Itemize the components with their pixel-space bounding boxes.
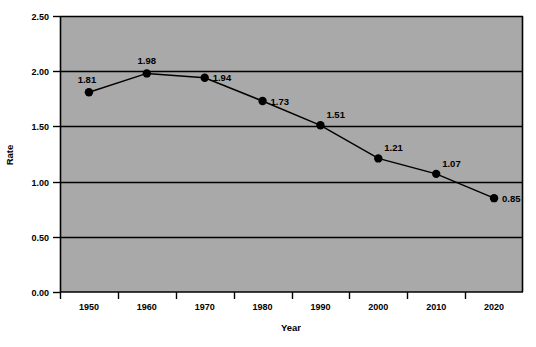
x-tick-label: 1970 (195, 302, 215, 312)
data-point-marker[interactable] (316, 121, 324, 129)
x-tick-label: 1980 (253, 302, 273, 312)
data-point-label: 1.21 (384, 142, 403, 153)
data-point-marker[interactable] (432, 170, 440, 178)
data-point-label: 1.94 (213, 72, 232, 83)
data-point-marker[interactable] (374, 154, 382, 162)
x-tick-label: 1960 (137, 302, 157, 312)
data-point-label: 1.07 (442, 158, 461, 169)
y-tick-label: 0.00 (31, 288, 49, 298)
data-point-label: 1.81 (78, 74, 97, 85)
y-tick-label: 2.00 (31, 67, 49, 77)
data-point-label: 1.98 (138, 55, 157, 66)
line-chart-svg: 0.000.501.001.502.002.50 195019601970198… (0, 0, 536, 347)
data-point-label: 1.51 (326, 109, 345, 120)
x-axis-title: Year (281, 322, 301, 333)
y-tick-label: 2.50 (31, 12, 49, 22)
data-point-marker[interactable] (200, 74, 208, 82)
x-tick-label: 2020 (484, 302, 504, 312)
x-tick-label: 2010 (426, 302, 446, 312)
x-tick-label: 1990 (310, 302, 330, 312)
y-tick-label: 0.50 (31, 233, 49, 243)
y-tick-label: 1.50 (31, 122, 49, 132)
plot-area-background (60, 16, 523, 292)
chart-figure: 0.000.501.001.502.002.50 195019601970198… (0, 0, 536, 347)
data-point-marker[interactable] (490, 194, 498, 202)
y-tick-label: 1.00 (31, 178, 49, 188)
data-point-marker[interactable] (143, 69, 151, 77)
data-point-marker[interactable] (258, 97, 266, 105)
data-point-marker[interactable] (85, 88, 93, 96)
data-point-label: 1.73 (271, 96, 290, 107)
data-point-label: 0.85 (502, 193, 521, 204)
y-axis-title: Rate (4, 145, 15, 166)
x-tick-label: 2000 (368, 302, 388, 312)
x-tick-label: 1950 (79, 302, 99, 312)
